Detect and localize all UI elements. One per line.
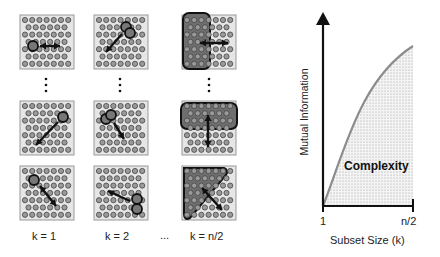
label-kn2: k = n/2 <box>190 230 223 242</box>
x-tick-label-1: 1 <box>320 215 326 227</box>
label-k1: k = 1 <box>32 230 56 242</box>
complexity-area <box>323 46 413 206</box>
complexity-annotation: Complexity <box>344 159 409 173</box>
y-axis-arrowhead <box>316 12 330 25</box>
lattice-panel <box>94 166 148 220</box>
lattice-panel <box>20 166 74 220</box>
lattice-panel <box>182 13 236 69</box>
x-tick-label-n2: n/2 <box>401 215 416 227</box>
lattice-panel <box>94 101 148 155</box>
lattice-panel <box>181 101 237 155</box>
vertical-ellipsis-dots <box>45 78 211 93</box>
lattice-panel <box>94 15 148 69</box>
lattice-panel <box>182 166 236 220</box>
lattice-panel <box>20 15 74 69</box>
horizontal-ellipsis: ... <box>160 229 169 241</box>
x-axis-label: Subset Size (k) <box>330 234 405 246</box>
lattice-panels <box>20 13 237 220</box>
y-axis-label: Mutual Information <box>298 62 310 162</box>
lattice-panel <box>20 101 74 155</box>
label-k2: k = 2 <box>105 230 129 242</box>
mutual-information-chart <box>316 12 414 212</box>
